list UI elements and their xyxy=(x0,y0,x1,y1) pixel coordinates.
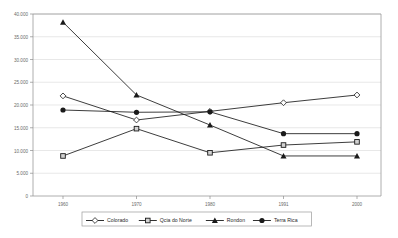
y-tick-label: 35.000 xyxy=(14,35,28,40)
legend-label: Rondon xyxy=(227,217,245,223)
y-tick-label: 10.000 xyxy=(14,149,28,154)
line-chart: 40.000 35.000 30.000 25.000 20.000 15.00… xyxy=(0,0,398,238)
legend-item-qcia-do-norte[interactable]: Qcia do Norte xyxy=(139,217,192,223)
y-tick-label: 5.000 xyxy=(17,171,29,176)
data-point xyxy=(207,109,212,114)
legend-label: Terra Rica xyxy=(274,217,298,223)
data-point xyxy=(354,131,359,136)
legend-label: Colorado xyxy=(107,217,128,223)
y-tick-label: 30.000 xyxy=(14,58,28,63)
data-point xyxy=(134,126,139,131)
y-tick-label: 40.000 xyxy=(14,12,28,17)
legend-marker xyxy=(146,218,151,223)
data-point xyxy=(134,110,139,115)
data-point xyxy=(61,154,66,159)
data-point xyxy=(208,150,213,155)
data-point xyxy=(281,131,286,136)
x-tick-label: 1980 xyxy=(205,202,216,207)
data-point xyxy=(355,140,360,145)
x-tick-label: 1970 xyxy=(131,202,142,207)
x-tick-label: 2000 xyxy=(352,202,363,207)
x-tick-label: 1991 xyxy=(278,202,289,207)
legend-label: Qcia do Norte xyxy=(160,217,192,223)
y-tick-label: 20.000 xyxy=(14,103,28,108)
y-tick-label: 15.000 xyxy=(14,126,28,131)
x-tick-label: 1960 xyxy=(58,202,69,207)
chart-container: 40.000 35.000 30.000 25.000 20.000 15.00… xyxy=(0,0,398,238)
data-point xyxy=(60,107,65,112)
y-tick-label: 25.000 xyxy=(14,80,28,85)
legend-marker xyxy=(259,218,264,223)
data-point xyxy=(281,143,286,148)
chart-legend: ColoradoQcia do NorteRondonTerra Rica xyxy=(82,212,311,226)
y-tick-label: 0 xyxy=(25,194,28,199)
